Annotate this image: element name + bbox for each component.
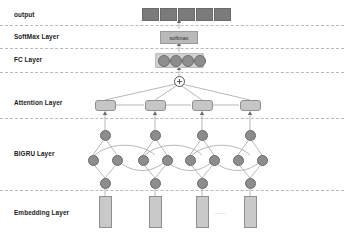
sum-node	[174, 76, 185, 87]
bigru-node-mid	[233, 155, 244, 166]
layer-label-output: output	[14, 11, 34, 18]
layer-label-attention: Attention Layer	[14, 99, 62, 106]
embedding-box	[149, 196, 162, 228]
fc-node	[182, 55, 194, 67]
layer-label-fc: FC Layer	[14, 56, 42, 63]
bigru-node-top	[100, 130, 111, 141]
bigru-node-bottom	[197, 178, 208, 189]
embedding-box	[196, 196, 209, 228]
bigru-node-bottom	[245, 178, 256, 189]
attention-box	[240, 100, 261, 111]
divider-attention-bigru	[0, 118, 344, 119]
bigru-node-mid	[88, 155, 99, 166]
layer-label-embedding: Embedding Layer	[14, 209, 69, 216]
output-box	[214, 8, 231, 21]
attention-box	[95, 100, 116, 111]
attention-box	[192, 100, 213, 111]
embedding-box	[99, 196, 112, 228]
bigru-node-mid	[257, 155, 268, 166]
softmax-box: softmax	[160, 31, 198, 44]
architecture-diagram: output SoftMax Layer FC Layer Attention …	[0, 0, 344, 238]
divider-output-softmax	[0, 25, 344, 26]
bigru-node-mid	[162, 155, 173, 166]
bigru-node-top	[197, 130, 208, 141]
output-box	[178, 8, 195, 21]
fc-node	[170, 55, 182, 67]
divider-softmax-fc	[0, 48, 344, 49]
bigru-node-mid	[138, 155, 149, 166]
embedding-ellipsis: ......	[214, 209, 226, 215]
bigru-node-mid	[112, 155, 123, 166]
embedding-box	[244, 196, 257, 228]
layer-label-bigru: BIGRU Layer	[14, 150, 55, 157]
output-box	[160, 8, 177, 21]
bigru-node-top	[150, 130, 161, 141]
layer-label-softmax: SoftMax Layer	[14, 33, 59, 40]
divider-bigru-embedding	[0, 190, 344, 191]
output-box	[142, 8, 159, 21]
fc-node	[194, 55, 206, 67]
bigru-node-top	[245, 130, 256, 141]
bigru-node-mid	[185, 155, 196, 166]
divider-fc-attention	[0, 72, 344, 73]
output-box	[196, 8, 213, 21]
bigru-node-mid	[209, 155, 220, 166]
bigru-node-bottom	[150, 178, 161, 189]
bigru-node-bottom	[100, 178, 111, 189]
attention-box	[145, 100, 166, 111]
fc-node	[158, 55, 170, 67]
